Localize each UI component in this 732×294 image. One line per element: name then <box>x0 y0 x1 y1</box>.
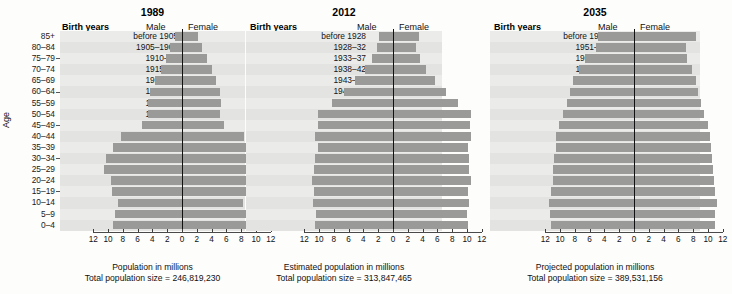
pyramid-row: 2026–30 <box>490 209 700 220</box>
x-axis-tick <box>575 229 576 232</box>
pyramid-row: 2016–20 <box>490 186 700 197</box>
bar-male <box>556 132 634 141</box>
bar-male <box>585 54 634 63</box>
pyramid-row: 1991–95 <box>490 131 700 142</box>
bar-female <box>634 110 704 119</box>
pyramid-row: 1956–60 <box>490 53 700 64</box>
bar-male <box>553 176 634 185</box>
birth-year-label: 1951–55 <box>490 42 611 53</box>
x-axis-ruler <box>545 232 723 233</box>
bar-female <box>634 143 711 152</box>
bar-female <box>634 132 710 141</box>
population-pyramid-figure: Age 85+80–8475–7970–7465–6960–6455–5950–… <box>0 0 732 294</box>
x-axis-tick <box>604 229 605 232</box>
bar-female <box>634 65 692 74</box>
bar-female <box>634 54 687 63</box>
bar-male <box>553 165 634 174</box>
pyramid-row: before 1951 <box>490 31 700 42</box>
bar-female <box>634 165 713 174</box>
bar-male <box>598 32 634 41</box>
panel-year-title: 2035 <box>490 6 700 18</box>
x-axis-tick <box>634 229 635 232</box>
bar-male <box>573 76 634 85</box>
bar-male <box>554 154 634 163</box>
age-axis-tick <box>56 92 60 93</box>
panel-2035: 2035Birth yearsMaleFemalebefore 19511951… <box>0 0 732 294</box>
bar-female <box>634 221 715 230</box>
bar-male <box>551 221 634 230</box>
pyramid-row: 2011–15 <box>490 175 700 186</box>
age-axis-tick <box>56 125 60 126</box>
x-axis-caption: Projected population in millions <box>490 262 700 272</box>
x-axis-tick <box>649 229 650 232</box>
pyramid-row: 1966–70 <box>490 75 700 86</box>
bar-female <box>634 99 701 108</box>
pyramid-row: 1971–75 <box>490 86 700 97</box>
pyramid-row: 1961–65 <box>490 64 700 75</box>
bar-male <box>549 199 634 208</box>
bar-male <box>550 210 634 219</box>
age-axis-tick <box>56 191 60 192</box>
bar-male <box>579 65 635 74</box>
x-axis-tick <box>664 229 665 232</box>
bar-female <box>634 154 712 163</box>
bar-female <box>634 76 696 85</box>
x-axis-tick <box>560 229 561 232</box>
total-population-caption: Total population size = 389,531,156 <box>490 273 700 283</box>
birth-year-label: before 1951 <box>490 31 611 42</box>
x-axis-tick <box>723 229 724 232</box>
pyramid-row: 1996–2000 <box>490 142 700 153</box>
pyramid-row: 2031–35 <box>490 220 700 231</box>
bar-female <box>634 88 698 97</box>
age-axis-tick <box>56 158 60 159</box>
pyramid-row: 1951–55 <box>490 42 700 53</box>
pyramid-rows: before 19511951–551956–601961–651966–701… <box>490 31 700 231</box>
pyramid-row: 1976–80 <box>490 98 700 109</box>
pyramid-row: 2021–25 <box>490 197 700 208</box>
bar-male <box>596 43 634 52</box>
bar-male <box>570 88 634 97</box>
bar-male <box>567 99 634 108</box>
x-axis-tick <box>619 229 620 232</box>
pyramid-row: 2001–05 <box>490 153 700 164</box>
x-axis-tick <box>590 229 591 232</box>
x-axis-tick <box>545 229 546 232</box>
bar-female <box>634 43 686 52</box>
pyramid-row: 1981–85 <box>490 109 700 120</box>
bar-male <box>556 143 634 152</box>
bar-female <box>634 121 708 130</box>
pyramid-row: 2006–10 <box>490 164 700 175</box>
x-axis-tick <box>693 229 694 232</box>
center-axis-line <box>634 29 635 233</box>
x-axis-tick <box>678 229 679 232</box>
bar-female <box>634 176 714 185</box>
age-axis-tick <box>56 58 60 59</box>
bar-female <box>634 210 715 219</box>
x-axis-tick <box>708 229 709 232</box>
bar-female <box>634 199 717 208</box>
bar-male <box>559 121 634 130</box>
bar-female <box>634 32 696 41</box>
bar-female <box>634 187 715 196</box>
bar-male <box>551 187 634 196</box>
x-axis-tick-label: 12 <box>714 235 732 244</box>
bar-male <box>563 110 634 119</box>
pyramid-row: 1986–90 <box>490 120 700 131</box>
